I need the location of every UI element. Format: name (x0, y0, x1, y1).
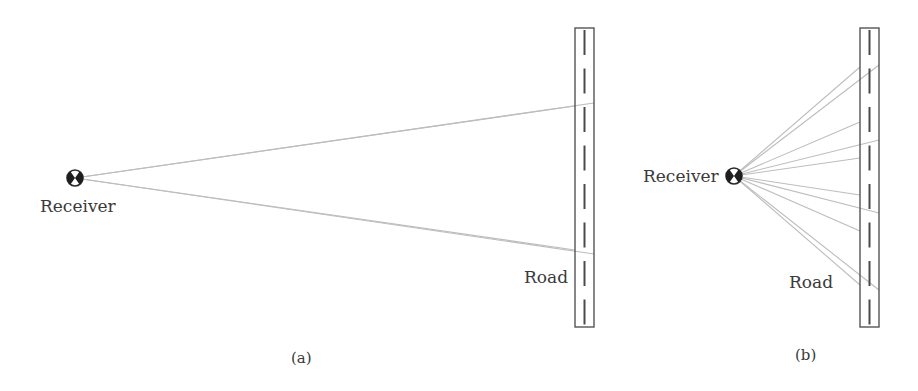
road-a (575, 28, 594, 327)
sight-ray (75, 106, 575, 178)
sight-rays-a (75, 103, 594, 254)
receiver-icon-b (726, 168, 742, 184)
figure: Receiver Road (a) Receiver Road (b) (0, 0, 918, 391)
sight-ray (734, 67, 860, 176)
panel-a: Receiver Road (a) (40, 28, 594, 367)
road-b (860, 28, 879, 327)
receiver-label-a: Receiver (40, 196, 117, 216)
sight-ray (734, 65, 879, 176)
receiver-icon-a (67, 170, 83, 186)
sight-rays-b (734, 65, 879, 290)
caption-b: (b) (795, 346, 816, 364)
panel-b: Receiver Road (b) (643, 28, 879, 364)
caption-a: (a) (291, 349, 312, 367)
receiver-label-b: Receiver (643, 166, 720, 186)
road-label-a: Road (524, 267, 568, 287)
road-label-b: Road (789, 272, 833, 292)
sight-ray (75, 178, 594, 254)
